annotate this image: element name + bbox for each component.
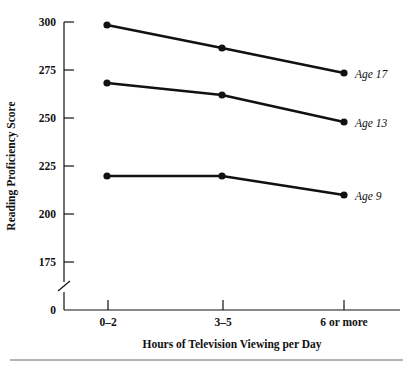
x-tick-label-3-5: 3–5 <box>214 316 232 328</box>
x-axis-title: Hours of Television Viewing per Day <box>142 338 321 351</box>
series-label-age-17: Age 17 <box>354 68 389 81</box>
x-tick-label-6-or-more: 6 or more <box>320 316 367 328</box>
y-tick-label-0: 0 <box>50 304 56 316</box>
x-tick-label-0-2: 0–2 <box>99 316 117 328</box>
data-point-age-17-3-5 <box>218 44 225 51</box>
chart-figure: 300 275 250 225 200 175 0 Reading Profic… <box>0 0 413 369</box>
y-axis-title: Reading Proficiency Score <box>5 101 18 230</box>
y-tick-label-300: 300 <box>39 16 57 28</box>
x-axis: 0–2 3–5 6 or more Hours of Television Vi… <box>64 300 400 351</box>
data-point-age-13-6-or-more <box>340 118 347 125</box>
series-label-age-13: Age 13 <box>354 117 388 130</box>
data-point-age-17-0-2 <box>103 21 110 28</box>
y-axis: 300 275 250 225 200 175 0 Reading Profic… <box>5 16 74 316</box>
y-tick-label-225: 225 <box>39 160 57 172</box>
series-age-17: Age 17 <box>103 21 388 81</box>
series-age-13: Age 13 <box>103 79 387 130</box>
data-point-age-9-6-or-more <box>340 191 347 198</box>
data-point-age-13-0-2 <box>103 79 110 86</box>
series-line-age-13 <box>107 83 344 122</box>
y-axis-break-icon <box>58 281 70 291</box>
series-line-age-9 <box>107 176 344 195</box>
y-tick-label-200: 200 <box>39 208 57 220</box>
series-line-age-17 <box>107 25 344 73</box>
series-age-9: Age 9 <box>103 172 381 203</box>
series-label-age-9: Age 9 <box>354 190 382 203</box>
data-point-age-13-3-5 <box>218 91 225 98</box>
y-tick-label-175: 175 <box>39 256 57 268</box>
data-point-age-17-6-or-more <box>340 69 347 76</box>
line-chart-svg: 300 275 250 225 200 175 0 Reading Profic… <box>0 0 413 369</box>
data-point-age-9-3-5 <box>218 172 225 179</box>
data-point-age-9-0-2 <box>103 172 110 179</box>
y-tick-label-250: 250 <box>39 112 57 124</box>
y-tick-label-275: 275 <box>39 64 57 76</box>
